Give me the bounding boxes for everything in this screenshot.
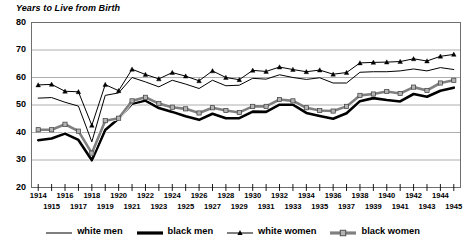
x-axis-tick-label: 1922 <box>137 191 154 200</box>
x-axis-tick-label: 1933 <box>284 202 301 211</box>
x-axis-tick-label: 1925 <box>177 202 194 211</box>
x-axis-tick-label: 1915 <box>43 202 60 211</box>
y-axis-tick-label: 70 <box>4 44 26 54</box>
legend-label: white women <box>258 226 316 236</box>
x-axis-tick-label: 1940 <box>378 191 395 200</box>
x-axis-tick-label: 1931 <box>258 202 275 211</box>
y-axis-tick-label: 60 <box>4 72 26 82</box>
life-expectancy-line-chart: Years to Live from Birth 80706050403020 … <box>0 0 466 247</box>
x-axis-tick-label: 1945 <box>445 202 462 211</box>
legend-entry-black-women[interactable]: black women <box>330 225 419 237</box>
x-axis-tick-label: 1935 <box>311 202 328 211</box>
x-axis-tick-label: 1934 <box>298 191 315 200</box>
x-axis-tick-label: 1916 <box>57 191 74 200</box>
x-axis-tick-label: 1942 <box>405 191 422 200</box>
x-axis-tick-label: 1936 <box>325 191 342 200</box>
x-axis-tick-label: 1941 <box>392 202 409 211</box>
y-axis-tick-label: 20 <box>4 182 26 192</box>
x-axis-tick-label: 1926 <box>191 191 208 200</box>
y-axis-tick-label: 40 <box>4 127 26 137</box>
legend-label: black men <box>168 226 213 236</box>
x-axis-tick-label: 1920 <box>110 191 127 200</box>
x-axis-tick-label: 1928 <box>217 191 234 200</box>
x-axis-tick-label: 1939 <box>365 202 382 211</box>
legend-swatch-icon <box>137 225 163 237</box>
legend-swatch-icon <box>330 225 356 237</box>
legend-label: white men <box>77 226 122 236</box>
x-axis-tick-label: 1930 <box>244 191 261 200</box>
legend-entry-black-men[interactable]: black men <box>137 225 213 237</box>
x-axis-tick-label: 1938 <box>352 191 369 200</box>
legend-label: black women <box>361 226 419 236</box>
x-axis-tick-label: 1929 <box>231 202 248 211</box>
x-axis-tick-label: 1921 <box>124 202 141 211</box>
chart-legend: white menblack menwhite womenblack women <box>0 222 466 240</box>
legend-swatch-icon <box>46 225 72 237</box>
x-axis-tick-label: 1943 <box>419 202 436 211</box>
x-axis-tick-label: 1944 <box>432 191 449 200</box>
y-axis-tick-label: 80 <box>4 17 26 27</box>
x-axis-tick-label: 1914 <box>30 191 47 200</box>
data-series-layer <box>36 52 456 160</box>
legend-entry-white-men[interactable]: white men <box>46 225 122 237</box>
x-axis-tick-label: 1932 <box>271 191 288 200</box>
x-axis-tick-label: 1937 <box>338 202 355 211</box>
y-axis-tick-label: 50 <box>4 99 26 109</box>
legend-entry-white-women[interactable]: white women <box>227 225 316 237</box>
x-axis-tick-label: 1918 <box>83 191 100 200</box>
x-axis-tick-label: 1919 <box>97 202 114 211</box>
x-axis-tick-label: 1924 <box>164 191 181 200</box>
y-axis-tick-label: 30 <box>4 154 26 164</box>
x-axis-tick-label: 1923 <box>150 202 167 211</box>
x-axis-tick-label: 1927 <box>204 202 221 211</box>
x-axis-tick-label: 1917 <box>70 202 87 211</box>
legend-swatch-icon <box>227 225 253 237</box>
